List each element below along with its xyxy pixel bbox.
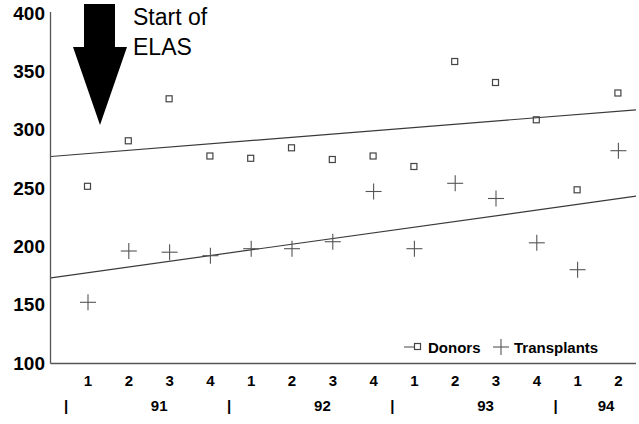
- series-transplants: [80, 143, 626, 311]
- year-separator: |: [390, 397, 394, 414]
- start-of-elas-annotation: Start of ELAS: [73, 4, 208, 125]
- trend-line-transplants: [51, 196, 636, 278]
- data-point-transplants: [121, 243, 137, 259]
- data-point-donors: [370, 153, 376, 159]
- x-tick-label: 3: [329, 372, 337, 389]
- y-tick-label: 350: [13, 61, 45, 82]
- year-group-labels: |91|92|93|94: [64, 397, 615, 414]
- data-point-transplants: [202, 248, 218, 264]
- y-tick-label: 250: [13, 178, 45, 199]
- x-tick-label: 2: [125, 372, 133, 389]
- y-tick-label: 300: [13, 119, 45, 140]
- x-tick-label: 2: [451, 372, 459, 389]
- y-tick-label: 100: [13, 353, 45, 374]
- down-arrow-icon: [73, 4, 127, 125]
- data-point-transplants: [447, 175, 463, 191]
- chart-svg: 400 350 300 250 200 150 100 Start of ELA…: [0, 0, 639, 424]
- chart-container: 400 350 300 250 200 150 100 Start of ELA…: [0, 0, 639, 424]
- year-separator: |: [553, 397, 557, 414]
- legend-label-transplants: Transplants: [514, 339, 598, 356]
- data-point-donors: [248, 155, 254, 161]
- data-point-transplants: [406, 241, 422, 257]
- data-point-donors: [493, 80, 499, 86]
- trend-line-donors: [51, 110, 636, 157]
- data-point-donors: [85, 183, 91, 189]
- data-point-donors: [615, 90, 621, 96]
- data-point-donors: [207, 153, 213, 159]
- x-tick-label: 2: [288, 372, 296, 389]
- chart-legend: Donors Transplants: [404, 339, 598, 356]
- x-tick-label: 1: [247, 372, 255, 389]
- year-label: 92: [314, 397, 331, 414]
- x-tick-label: 4: [206, 372, 215, 389]
- x-tick-label: 3: [492, 372, 500, 389]
- data-point-transplants: [610, 143, 626, 159]
- data-point-transplants: [488, 191, 504, 207]
- data-point-donors: [329, 157, 335, 163]
- data-point-transplants: [80, 294, 96, 310]
- data-point-transplants: [570, 262, 586, 278]
- data-point-transplants: [325, 234, 341, 250]
- legend-marker-transplants: [493, 339, 509, 355]
- x-tick-label: 4: [369, 372, 378, 389]
- series-donors: [85, 59, 621, 193]
- year-label: 91: [151, 397, 168, 414]
- y-tick-label: 200: [13, 236, 45, 257]
- data-point-donors: [125, 138, 131, 144]
- x-tick-label: 4: [533, 372, 542, 389]
- y-tick-labels: 400 350 300 250 200 150 100: [13, 3, 45, 374]
- data-point-donors: [166, 96, 172, 102]
- y-tick-label: 400: [13, 3, 45, 24]
- year-label: 93: [477, 397, 494, 414]
- data-point-donors: [452, 59, 458, 65]
- data-point-transplants: [243, 241, 259, 257]
- x-tick-label: 2: [614, 372, 622, 389]
- x-tick-label: 3: [165, 372, 173, 389]
- y-tick-label: 150: [13, 294, 45, 315]
- data-point-transplants: [366, 184, 382, 200]
- year-separator: |: [227, 397, 231, 414]
- x-tick-label: 1: [573, 372, 581, 389]
- data-point-transplants: [529, 235, 545, 251]
- data-point-transplants: [162, 244, 178, 260]
- data-point-donors: [574, 187, 580, 193]
- year-separator: |: [64, 397, 68, 414]
- legend-label-donors: Donors: [428, 339, 481, 356]
- legend-marker-donors: [404, 344, 421, 350]
- x-tick-label: 1: [84, 372, 92, 389]
- data-point-donors: [289, 145, 295, 151]
- x-tick-label: 1: [410, 372, 418, 389]
- x-tick-labels: 12341234123412: [84, 372, 623, 389]
- annotation-line-1: Start of: [133, 4, 208, 30]
- data-point-donors: [411, 164, 417, 170]
- annotation-line-2: ELAS: [133, 34, 192, 60]
- year-label: 94: [598, 397, 615, 414]
